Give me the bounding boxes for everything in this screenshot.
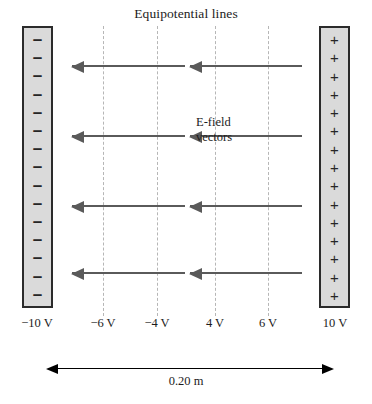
efield-vector-arrow [72, 205, 185, 207]
positive-charge-symbol: + [330, 233, 339, 248]
efield-vector-arrow [190, 272, 302, 274]
efield-vector-arrow [190, 65, 302, 67]
dimension-arrowhead-left-icon [46, 364, 58, 374]
positive-charge-symbol: + [330, 215, 339, 230]
efield-vectors-label: E-field vectors [196, 115, 266, 145]
positive-charge-symbol: + [330, 160, 339, 175]
efield-label-line2: vectors [196, 130, 266, 145]
efield-label-line1: E-field [196, 115, 231, 129]
positive-plate: +++++++++++++++ [319, 26, 350, 308]
voltage-label-equipotential: 4 V [206, 316, 224, 331]
negative-charge-symbol: – [33, 67, 42, 84]
efield-vector-arrow [72, 135, 185, 137]
negative-charge-symbol: – [33, 268, 42, 285]
positive-charge-symbol: + [330, 50, 339, 65]
negative-charge-symbol: – [33, 31, 42, 48]
negative-charge-symbol: – [33, 158, 42, 175]
dimension-arrowhead-right-icon [322, 364, 334, 374]
positive-charge-symbol: + [330, 69, 339, 84]
negative-charge-symbol: – [33, 286, 42, 303]
positive-charge-symbol: + [330, 197, 339, 212]
diagram-title: Equipotential lines [0, 6, 372, 22]
dimension-arrow [58, 368, 322, 369]
negative-charge-symbol: – [33, 213, 42, 230]
negative-charge-symbol: – [33, 140, 42, 157]
negative-charge-symbol: – [33, 122, 42, 139]
positive-charge-symbol: + [330, 32, 339, 47]
dimension-label: 0.20 m [0, 374, 372, 389]
negative-plate: ––––––––––––––– [22, 26, 53, 308]
positive-charge-symbol: + [330, 178, 339, 193]
positive-charge-symbol: + [330, 270, 339, 285]
negative-charge-symbol: – [33, 177, 42, 194]
voltage-label-negative-plate: −10 V [21, 316, 52, 331]
positive-charge-symbol: + [330, 87, 339, 102]
efield-vector-arrow [72, 272, 185, 274]
negative-charge-symbol: – [33, 86, 42, 103]
voltage-label-equipotential: 6 V [259, 316, 277, 331]
negative-charge-symbol: – [33, 249, 42, 266]
positive-charge-symbol: + [330, 105, 339, 120]
positive-charge-symbol: + [330, 251, 339, 266]
positive-charge-symbol: + [330, 288, 339, 303]
negative-charge-symbol: – [33, 49, 42, 66]
positive-charge-symbol: + [330, 142, 339, 157]
positive-charge-symbol: + [330, 123, 339, 138]
voltage-label-equipotential: −6 V [90, 316, 115, 331]
equipotential-field-diagram: Equipotential lines ––––––––––––––– ++++… [0, 0, 372, 404]
negative-charge-symbol: – [33, 195, 42, 212]
negative-charge-symbol: – [33, 104, 42, 121]
efield-vector-arrow [190, 205, 302, 207]
voltage-label-equipotential: −4 V [144, 316, 169, 331]
negative-charge-symbol: – [33, 231, 42, 248]
voltage-label-positive-plate: 10 V [323, 316, 347, 331]
efield-vector-arrow [72, 65, 185, 67]
